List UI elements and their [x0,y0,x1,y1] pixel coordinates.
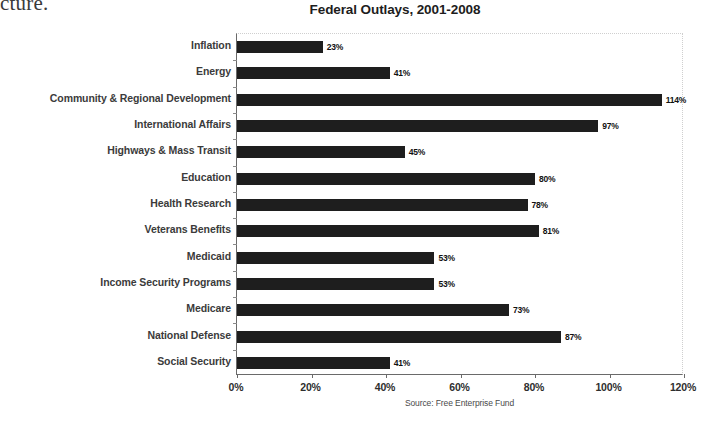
y-axis-category-label: Energy [1,65,231,77]
y-axis-category-label: Social Security [1,355,231,367]
x-axis-tick-labels: 0%20%40%60%80%100%120% [236,0,683,422]
y-axis-category-label: International Affairs [1,118,231,130]
x-axis-tick-label: 80% [504,381,564,393]
source-note: Source: Free Enterprise Fund [236,398,683,408]
x-axis-tick-label: 20% [281,381,341,393]
y-axis-category-label: Highways & Mass Transit [1,144,231,156]
x-axis-tick-label: 100% [579,381,639,393]
y-axis-category-label: Health Research [1,197,231,209]
y-axis-category-label: Medicaid [1,250,231,262]
x-axis-tick-label: 120% [653,381,709,393]
y-axis-category-label: National Defense [1,329,231,341]
y-axis-category-label: Inflation [1,39,231,51]
y-axis-category-labels: InflationEnergyCommunity & Regional Deve… [0,33,231,375]
y-axis-category-label: Medicare [1,302,231,314]
x-axis-tick-label: 0% [206,381,266,393]
scanned-page-text-fragment: cture. [0,0,48,16]
x-axis-tick [684,374,685,378]
x-axis-tick-label: 40% [355,381,415,393]
x-axis-tick-label: 60% [430,381,490,393]
y-axis-category-label: Income Security Programs [1,276,231,288]
y-axis-category-label: Veterans Benefits [1,223,231,235]
y-axis-category-label: Community & Regional Development [1,92,231,104]
y-axis-category-label: Education [1,171,231,183]
